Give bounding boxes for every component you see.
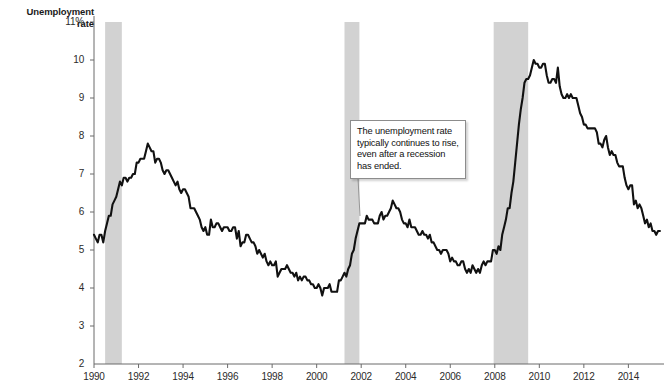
recession-1990-1991 [105,22,122,364]
x-tick-label: 1992 [117,371,161,382]
x-tick-label: 2012 [562,371,606,382]
x-tick-label: 1996 [206,371,250,382]
x-tick-label: 1998 [250,371,294,382]
x-tick-label: 2008 [473,371,517,382]
y-tick-label: 6 [50,206,84,217]
y-tick-label: 10 [50,54,84,65]
unemployment-rate-chart: Unemployment rate 11%1098765432199019921… [0,0,672,388]
x-tick-label: 2002 [339,371,383,382]
y-tick-label: 3 [50,320,84,331]
y-tick-label: 7 [50,168,84,179]
x-tick-label: 1990 [72,371,116,382]
x-tick-label: 2014 [606,371,650,382]
x-tick-label: 2006 [428,371,472,382]
x-tick-label: 2004 [384,371,428,382]
y-tick-label: 9 [50,92,84,103]
y-tick-label: 8 [50,130,84,141]
plot-area [0,0,672,388]
y-tick-label: 5 [50,244,84,255]
x-tick-label: 2000 [295,371,339,382]
y-tick-label: 4 [50,282,84,293]
callout-text: The unemployment rate typically continue… [357,126,459,171]
y-tick-label: 11% [50,16,84,27]
recession-2001 [344,22,359,364]
callout-recession-lag: The unemployment rate typically continue… [350,120,466,179]
x-tick-label: 2010 [517,371,561,382]
y-tick-label: 2 [50,358,84,369]
x-tick-label: 1994 [161,371,205,382]
